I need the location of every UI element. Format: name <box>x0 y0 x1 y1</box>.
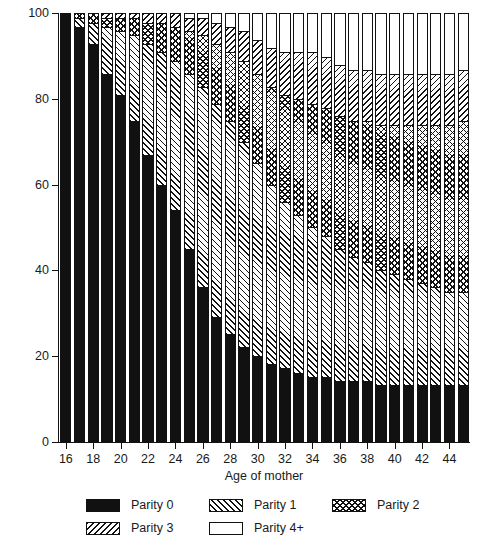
stacked-bar[interactable] <box>334 13 345 442</box>
bar-segment-parity-1 <box>335 249 344 381</box>
stacked-bar[interactable] <box>60 13 71 442</box>
x-axis-tick-label: 42 <box>415 453 429 466</box>
legend: Parity 0Parity 1Parity 2Parity 3Parity 4… <box>86 494 456 540</box>
bar-segment-parity-1 <box>349 257 358 381</box>
legend-label: Parity 0 <box>131 499 173 512</box>
bar-segment-parity-0 <box>431 385 440 441</box>
stacked-bar[interactable] <box>129 13 140 442</box>
bar-segment-parity-2 <box>349 121 358 258</box>
stacked-bar[interactable] <box>375 13 386 442</box>
bar-slot <box>86 13 100 442</box>
bar-slot <box>456 13 470 442</box>
legend-item[interactable]: Parity 0 <box>86 499 209 512</box>
x-axis-tick-label: 26 <box>196 453 210 466</box>
stacked-bar[interactable] <box>88 13 99 442</box>
bar-segment-parity-0 <box>349 381 358 441</box>
bar-segment-parity-0 <box>198 287 207 441</box>
bar-segment-parity-4 <box>390 14 399 74</box>
stacked-bar[interactable] <box>211 13 222 442</box>
bar-segment-parity-2 <box>89 14 98 23</box>
bar-segment-parity-0 <box>459 385 468 441</box>
bar-segment-parity-3 <box>157 14 166 23</box>
stacked-bar[interactable] <box>142 13 153 442</box>
bar-slot <box>100 13 114 442</box>
bar-segment-parity-2 <box>239 61 248 142</box>
bar-segment-parity-1 <box>418 283 427 385</box>
bar-segment-parity-4 <box>459 14 468 70</box>
legend-label: Parity 2 <box>377 499 419 512</box>
stacked-bar[interactable] <box>444 13 455 442</box>
bar-segment-parity-0 <box>363 381 372 441</box>
bar-segment-parity-1 <box>102 27 111 74</box>
bar-segment-parity-1 <box>431 287 440 385</box>
bar-segment-parity-1 <box>226 121 235 335</box>
legend-item[interactable]: Parity 2 <box>332 499 455 512</box>
bar-segment-parity-3 <box>212 23 221 44</box>
bar-slot <box>114 13 128 442</box>
bar-segment-parity-2 <box>308 104 317 228</box>
plot-area: 020406080100 161820222426283032343638404… <box>58 13 470 443</box>
stacked-bar[interactable] <box>266 13 277 442</box>
stacked-bar[interactable] <box>252 13 263 442</box>
bar-segment-parity-0 <box>322 377 331 441</box>
stacked-bar[interactable] <box>417 13 428 442</box>
stacked-bar[interactable] <box>156 13 167 442</box>
bar-segment-parity-1 <box>390 274 399 385</box>
stacked-bar[interactable] <box>197 13 208 442</box>
bar-segment-parity-2 <box>294 99 303 214</box>
stacked-bar[interactable] <box>389 13 400 442</box>
bar-slot <box>278 13 292 442</box>
legend-item[interactable]: Parity 4+ <box>209 522 332 535</box>
bar-segment-parity-0 <box>418 385 427 441</box>
bar-segment-parity-4 <box>253 14 262 40</box>
x-axis-tick <box>121 442 122 449</box>
legend-item[interactable]: Parity 3 <box>86 522 209 535</box>
bar-segment-parity-3 <box>322 57 331 108</box>
stacked-bar[interactable] <box>430 13 441 442</box>
stacked-bar[interactable] <box>307 13 318 442</box>
stacked-bar[interactable] <box>238 13 249 442</box>
bar-segment-parity-1 <box>376 270 385 385</box>
x-axis-tick-label: 44 <box>442 453 456 466</box>
x-axis-tick-label: 20 <box>114 453 128 466</box>
stacked-bar[interactable] <box>348 13 359 442</box>
stacked-bar[interactable] <box>458 13 469 442</box>
bar-segment-parity-0 <box>226 334 235 441</box>
stacked-bar[interactable] <box>170 13 181 442</box>
bar-segment-parity-2 <box>130 18 139 35</box>
bar-segment-parity-3 <box>349 70 358 121</box>
legend-swatch-icon <box>86 522 120 535</box>
bar-segment-parity-3 <box>308 52 317 103</box>
bar-segment-parity-0 <box>445 385 454 441</box>
bar-segment-parity-3 <box>226 27 235 53</box>
x-axis-tick-label: 32 <box>278 453 292 466</box>
stacked-bar[interactable] <box>293 13 304 442</box>
x-axis-tick <box>367 442 368 449</box>
bar-segment-parity-1 <box>459 292 468 386</box>
stacked-bar[interactable] <box>321 13 332 442</box>
bar-segment-parity-2 <box>157 23 166 53</box>
bar-segment-parity-4 <box>294 14 303 52</box>
stacked-bar[interactable] <box>115 13 126 442</box>
bar-segment-parity-3 <box>185 18 194 31</box>
legend-item[interactable]: Parity 1 <box>209 499 332 512</box>
stacked-bar[interactable] <box>362 13 373 442</box>
stacked-bar[interactable] <box>101 13 112 442</box>
bar-segment-parity-0 <box>280 368 289 441</box>
stacked-bar[interactable] <box>403 13 414 442</box>
bar-segment-parity-0 <box>157 185 166 441</box>
stacked-bar[interactable] <box>279 13 290 442</box>
bar-segment-parity-3 <box>294 52 303 99</box>
bar-segment-parity-3 <box>445 74 454 125</box>
x-axis-tick-label: 38 <box>360 453 374 466</box>
stacked-bar[interactable] <box>225 13 236 442</box>
stacked-bar[interactable] <box>74 13 85 442</box>
bar-segment-parity-2 <box>445 125 454 292</box>
bar-segment-parity-2 <box>431 125 440 287</box>
bar-segment-parity-1 <box>198 87 207 288</box>
stacked-bar[interactable] <box>184 13 195 442</box>
bar-segment-parity-3 <box>280 52 289 95</box>
bar-segment-parity-1 <box>280 202 289 369</box>
x-axis-tick <box>230 442 231 449</box>
bar-segment-parity-1 <box>116 31 125 95</box>
